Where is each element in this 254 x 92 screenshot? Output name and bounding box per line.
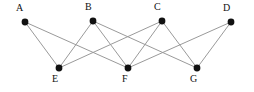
graph-figure: ABCDEFG [0, 0, 254, 92]
graph-edge-a-e [25, 22, 59, 68]
graph-vertex-c [159, 18, 166, 25]
vertices-group [22, 18, 235, 72]
vertex-label-e: E [52, 74, 58, 84]
graph-edge-d-g [197, 22, 231, 68]
graph-vertex-e [56, 65, 63, 72]
graph-vertex-f [125, 65, 132, 72]
graph-vertex-g [194, 65, 201, 72]
graph-vertex-b [90, 18, 97, 25]
vertex-label-b: B [85, 2, 92, 12]
vertex-label-d: D [223, 3, 230, 13]
graph-vertex-a [22, 19, 29, 26]
graph-edge-a-f [25, 22, 128, 68]
vertex-label-g: G [190, 74, 197, 84]
graph-vertex-d [228, 19, 235, 26]
vertex-label-c: C [154, 2, 161, 12]
vertex-label-f: F [122, 74, 128, 84]
graph-edge-d-f [128, 22, 231, 68]
vertex-label-a: A [16, 3, 23, 13]
edges-group [25, 21, 231, 68]
graph-edge-b-e [59, 21, 93, 68]
